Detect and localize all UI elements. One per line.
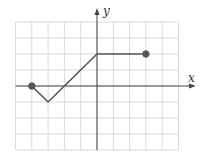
y-axis-label: y [102,4,110,18]
axes [16,8,197,150]
x-axis-label: x [188,71,195,85]
function-graph: y x [0,0,201,160]
y-axis-arrow-icon [95,8,100,15]
endpoint-dot-end [143,51,149,57]
endpoint-dot-start [29,83,35,89]
series-line [32,54,146,102]
plot-series [29,51,149,102]
